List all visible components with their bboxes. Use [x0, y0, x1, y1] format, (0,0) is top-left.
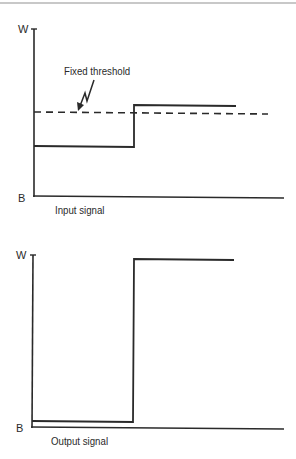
output-y-axis-top-label: W	[16, 250, 26, 261]
input-graph	[31, 29, 284, 198]
output-y-axis	[32, 255, 33, 428]
output-signal-caption: Output signal	[51, 436, 108, 447]
output-graph	[30, 255, 284, 429]
output-signal-line	[32, 259, 234, 422]
input-signal-caption: Input signal	[55, 205, 105, 216]
fixed-threshold-line	[34, 112, 268, 114]
threshold-pointer-arrow-icon	[77, 80, 94, 111]
input-signal-line	[34, 105, 236, 147]
threshold-diagram	[0, 0, 296, 459]
input-y-axis-bottom-label: B	[18, 193, 25, 204]
fixed-threshold-label: Fixed threshold	[64, 66, 130, 77]
input-y-axis-top-label: W	[18, 24, 28, 35]
output-x-axis	[31, 427, 284, 429]
input-x-axis	[33, 196, 284, 198]
output-y-axis-bottom-label: B	[16, 423, 23, 434]
